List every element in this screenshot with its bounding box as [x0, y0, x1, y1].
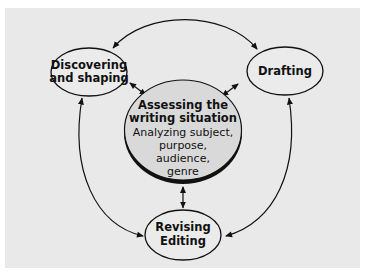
node-revising-line2: Editing	[160, 234, 206, 248]
node-drafting-label: Drafting	[258, 64, 312, 78]
node-revising-line1: Revising	[155, 220, 210, 234]
node-revising: Revising Editing	[145, 210, 221, 260]
node-center-body3: audience,	[156, 152, 210, 165]
node-center-title2: writing situation	[129, 111, 237, 125]
node-center-body1: Analyzing subject,	[133, 126, 233, 139]
node-center-body2: purpose,	[159, 139, 207, 152]
node-drafting: Drafting	[247, 47, 323, 95]
node-center-body4: genre	[167, 165, 199, 178]
node-discovering-line2: and shaping	[49, 71, 129, 85]
node-discovering: Discovering and shaping	[49, 48, 129, 96]
node-center-title1: Assessing the	[138, 98, 228, 112]
node-discovering-line1: Discovering	[51, 58, 127, 72]
node-center: Assessing the writing situation Analyzin…	[124, 80, 242, 184]
writing-process-diagram: Discovering and shaping Drafting Assessi…	[0, 0, 365, 274]
